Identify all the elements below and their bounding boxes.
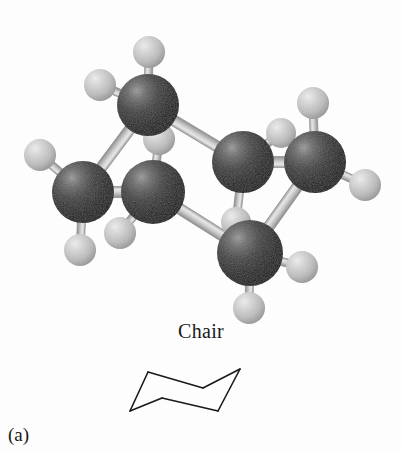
conformation-label: Chair	[0, 320, 402, 343]
hydrogen-1a	[133, 36, 165, 68]
hydrogen-2b	[64, 234, 96, 266]
carbon-3	[121, 160, 185, 224]
panel-caption: (a)	[8, 424, 29, 446]
hydrogen-2a	[24, 139, 56, 171]
carbon-2	[52, 161, 114, 223]
carbon-5	[284, 131, 346, 193]
chair-edge-3	[162, 398, 218, 411]
chair-edge-0	[148, 372, 203, 388]
hydrogen-5b	[349, 169, 381, 201]
carbon-1	[117, 74, 179, 136]
hydrogen-5a	[297, 87, 329, 119]
hydrogen-3b	[104, 217, 136, 249]
hydrogen-1b	[84, 69, 116, 101]
chair-conformation-figure: Chair (a)	[0, 0, 402, 453]
chair-skeletal-drawing	[110, 352, 270, 422]
hydrogen-6a	[286, 251, 318, 283]
carbon-4	[212, 131, 274, 193]
carbon-6	[217, 220, 283, 286]
ball-and-stick-model	[0, 0, 402, 330]
